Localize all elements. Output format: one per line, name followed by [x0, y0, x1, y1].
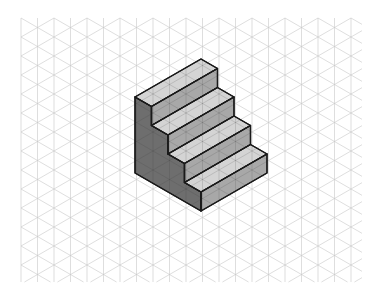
isometric-diagram [0, 0, 380, 299]
